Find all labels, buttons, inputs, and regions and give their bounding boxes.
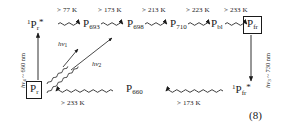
photon-label-diagonal-1: hν1	[58, 41, 67, 49]
node-Pr-excited: 1Pr*	[27, 18, 43, 32]
transition-label-top-1: > 77 K	[57, 7, 77, 14]
photon-label-diagonal-2: hν2	[92, 61, 101, 69]
node-P698: P698	[127, 18, 144, 31]
node-Pr-ground-sub: r	[36, 88, 38, 96]
equation-number: (8)	[249, 110, 262, 121]
transition-label-top-4: > 223 K	[186, 7, 210, 14]
photon-left-sub: 4	[22, 79, 27, 82]
node-P660-sub: 660	[132, 88, 143, 96]
photon-right-sub: 3	[267, 79, 272, 82]
node-Pbl-sub: bl	[217, 23, 222, 31]
photon-label-left-vertical: hν4 ~ 660 nm	[20, 53, 27, 88]
diagonal-wavy-arrow-2	[47, 38, 112, 93]
photon-left-h: h	[19, 85, 26, 88]
photon-right-nu: ν	[264, 82, 271, 85]
photon-d1-sub: 1	[65, 42, 68, 48]
node-Pbl: Pbl	[211, 18, 223, 31]
photon-left-rest: ~ 660 nm	[19, 53, 26, 79]
diagonal-wavy-arrow-1	[47, 49, 78, 84]
node-Pr-excited-star: *	[39, 17, 44, 27]
node-P710: P710	[170, 18, 187, 31]
node-Pfr-excited: 1Pfr*	[232, 83, 251, 97]
node-P693-sub: 693	[89, 23, 100, 31]
photon-label-right-vertical: hν3 ~ 730 nm	[265, 53, 272, 88]
transition-label-top-5: > 233 K	[224, 7, 248, 14]
photon-right-rest: ~ 730 nm	[264, 53, 271, 79]
node-Pfr-boxed: Pfr	[243, 16, 262, 34]
node-P693: P693	[83, 18, 100, 31]
photon-left-nu: ν	[19, 82, 26, 85]
node-Pfr-sub: fr	[253, 23, 258, 31]
phytochrome-photocycle-diagram: > 77 K > 173 K > 213 K > 223 K > 233 K 1…	[0, 0, 284, 128]
transition-label-top-3: > 213 K	[142, 7, 166, 14]
node-Pfr-excited-star: *	[246, 82, 251, 92]
node-Pr-ground-boxed: Pr	[26, 81, 42, 99]
transition-label-top-2: > 173 K	[98, 7, 122, 14]
node-P710-sub: 710	[176, 23, 187, 31]
photon-right-h: h	[264, 85, 271, 88]
photon-d2-sub: 2	[99, 62, 102, 68]
node-P698-sub: 698	[133, 23, 144, 31]
transition-label-bottom-2: > 173 K	[177, 100, 201, 107]
transition-label-bottom-1: > 233 K	[61, 100, 85, 107]
node-P660: P660	[126, 83, 143, 96]
